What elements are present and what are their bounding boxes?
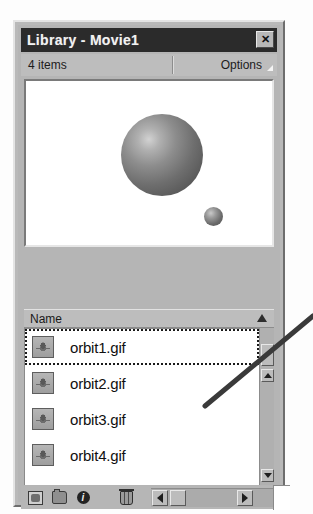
- window-inner-face: Library - Movie1 ✕ 4 items Options Name: [18, 25, 280, 502]
- chevron-up-icon: [264, 373, 272, 378]
- new-symbol-button[interactable]: [26, 489, 44, 506]
- sort-ascending-icon[interactable]: [257, 314, 267, 322]
- resize-grip[interactable]: [273, 485, 290, 510]
- bitmap-item-icon: [32, 372, 54, 394]
- orbit-small-sphere-graphic: [204, 207, 223, 226]
- orbit-large-sphere-graphic: [121, 114, 203, 196]
- chevron-down-icon: [267, 65, 273, 71]
- scroll-left-button[interactable]: [152, 490, 168, 506]
- properties-button[interactable]: i: [74, 489, 92, 506]
- trash-icon: [120, 491, 133, 505]
- horizontal-scrollbar[interactable]: [151, 488, 275, 507]
- bitmap-item-icon: [32, 408, 54, 430]
- folder-icon: [52, 491, 67, 504]
- infobar-divider: [172, 56, 174, 74]
- options-label: Options: [221, 58, 262, 72]
- chevron-down-icon: [264, 473, 272, 478]
- titlebar[interactable]: Library - Movie1 ✕: [21, 28, 277, 52]
- list-item-label: orbit4.gif: [70, 447, 126, 464]
- delete-button[interactable]: [117, 489, 135, 506]
- new-folder-button[interactable]: [50, 489, 68, 506]
- vertical-scrollbar-thumb[interactable]: [261, 344, 274, 366]
- list-item[interactable]: orbit3.gif: [25, 401, 259, 437]
- library-panel-window: Library - Movie1 ✕ 4 items Options Name: [13, 20, 285, 507]
- bottom-toolbar: i: [21, 486, 277, 509]
- list-item[interactable]: orbit4.gif: [25, 437, 259, 473]
- chevron-right-icon: [242, 493, 248, 503]
- library-item-list[interactable]: orbit1.giforbit2.giforbit3.giforbit4.gif: [24, 328, 259, 485]
- horizontal-scrollbar-thumb[interactable]: [170, 490, 186, 506]
- list-item-label: orbit3.gif: [70, 411, 126, 428]
- column-header-name[interactable]: Name: [24, 309, 274, 328]
- info-icon: i: [77, 491, 90, 504]
- column-header-label: Name: [30, 312, 62, 326]
- bitmap-item-icon: [32, 336, 54, 358]
- list-item-label: orbit2.gif: [70, 375, 126, 392]
- chevron-left-icon: [157, 493, 163, 503]
- page-background: Library - Movie1 ✕ 4 items Options Name: [0, 0, 313, 514]
- list-item[interactable]: orbit2.gif: [25, 365, 259, 401]
- options-menu-button[interactable]: Options: [221, 54, 273, 76]
- list-item[interactable]: orbit1.gif: [25, 329, 259, 365]
- close-icon[interactable]: ✕: [256, 31, 274, 48]
- info-bar: 4 items Options: [21, 54, 277, 76]
- window-title: Library - Movie1: [27, 32, 139, 48]
- item-count-label: 4 items: [28, 58, 67, 72]
- scroll-up-button[interactable]: [261, 369, 274, 382]
- symbol-preview-pane[interactable]: [24, 79, 274, 247]
- scroll-down-button[interactable]: [261, 469, 274, 482]
- bitmap-item-icon: [32, 444, 54, 466]
- scroll-right-button[interactable]: [237, 490, 253, 506]
- vertical-scrollbar[interactable]: [259, 328, 274, 485]
- new-symbol-icon: [28, 491, 43, 505]
- list-item-label: orbit1.gif: [70, 339, 126, 356]
